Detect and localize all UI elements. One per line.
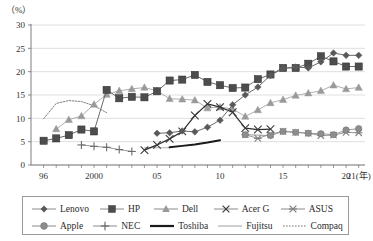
data-point-square <box>191 71 198 78</box>
series-compaq <box>44 101 107 119</box>
x-tick-label: 05 <box>153 171 163 181</box>
data-point-square <box>78 126 85 133</box>
data-point-circle <box>267 132 273 138</box>
y-tick-label: 30 <box>16 20 26 30</box>
legend-item-toshiba[interactable]: Toshiba <box>149 220 208 232</box>
thick-line-marker-icon <box>149 220 175 232</box>
data-point-triangle <box>254 106 261 113</box>
asterisk-marker-icon <box>280 203 306 215</box>
thin-line-marker-icon <box>217 220 243 232</box>
chart-plot-area: 0510152025309620000510152021(年) <box>0 14 373 192</box>
data-point-circle <box>305 130 311 136</box>
data-point-square <box>128 93 135 100</box>
data-point-square <box>90 128 97 135</box>
legend-item-acer-g[interactable]: Acer G <box>213 203 271 215</box>
data-point-circle <box>355 125 361 131</box>
legend-item-compaq[interactable]: Compaq <box>282 220 343 232</box>
y-tick-label: 20 <box>16 67 26 77</box>
data-point-square <box>242 84 249 91</box>
data-point-diamond <box>355 52 362 59</box>
series-line <box>44 101 107 119</box>
chart-legend: LenovoHPDellAcer GASUS AppleNECToshibaFu… <box>22 196 349 235</box>
y-tick-label: 15 <box>16 90 26 100</box>
data-point-circle <box>280 128 286 134</box>
triangle-marker-icon <box>153 203 179 215</box>
square-marker-icon <box>99 203 125 215</box>
data-point-plus <box>115 146 123 154</box>
x-tick-label: 2000 <box>85 171 104 181</box>
x-tick-label: 15 <box>279 171 289 181</box>
data-point-plus <box>90 142 98 150</box>
data-point-diamond <box>154 130 161 137</box>
data-point-triangle <box>53 125 60 132</box>
data-point-square <box>179 76 186 83</box>
legend-label: Acer G <box>242 204 270 214</box>
series-toshiba <box>170 140 220 147</box>
data-point-circle <box>318 131 324 137</box>
plus-marker-icon <box>92 220 118 232</box>
diamond-marker-icon <box>31 203 57 215</box>
x-tick-label: 21(年) <box>347 170 371 181</box>
y-tick-label: 10 <box>16 114 26 124</box>
legend-label: Dell <box>182 204 198 214</box>
series-line <box>157 53 359 133</box>
legend-row-1: LenovoHPDellAcer GASUS <box>31 200 342 217</box>
y-tick-label: 0 <box>21 160 26 170</box>
data-point-triangle <box>141 84 148 91</box>
data-point-circle <box>292 129 298 135</box>
data-point-diamond <box>343 52 350 59</box>
data-point-square <box>53 135 60 142</box>
y-tick-label: 5 <box>21 137 26 147</box>
legend-item-lenovo[interactable]: Lenovo <box>31 203 90 215</box>
data-point-triangle <box>317 87 324 94</box>
data-point-triangle <box>166 95 173 102</box>
data-point-square <box>103 86 110 93</box>
legend-label: ASUS <box>309 204 333 214</box>
series-nec <box>77 141 135 156</box>
data-point-square <box>342 63 349 70</box>
data-point-asterisk <box>254 135 262 141</box>
data-point-square <box>116 95 123 102</box>
line-chart-svg: 0510152025309620000510152021(年) <box>0 14 373 192</box>
data-point-circle <box>330 131 336 137</box>
data-point-diamond <box>330 50 337 57</box>
legend-label: NEC <box>121 221 140 231</box>
data-point-circle <box>242 131 248 137</box>
data-point-square <box>330 58 337 65</box>
data-point-diamond <box>166 130 173 137</box>
series-hp <box>40 53 362 145</box>
data-point-plus <box>103 143 111 151</box>
legend-item-apple[interactable]: Apple <box>31 220 83 232</box>
data-point-square <box>166 77 173 84</box>
data-point-square <box>40 137 47 144</box>
legend-row-2: AppleNECToshibaFujitsuCompaq <box>31 217 342 234</box>
data-point-square <box>141 94 148 101</box>
legend-label: Apple <box>60 221 83 231</box>
legend-label: Toshiba <box>178 221 208 231</box>
data-point-square <box>216 82 223 89</box>
data-point-triangle <box>90 101 97 108</box>
data-point-diamond <box>192 129 199 136</box>
data-point-plus <box>128 147 136 155</box>
legend-item-asus[interactable]: ASUS <box>280 203 333 215</box>
legend-item-hp[interactable]: HP <box>99 203 144 215</box>
data-point-square <box>204 78 211 85</box>
data-point-square <box>65 132 72 139</box>
data-point-square <box>355 63 362 70</box>
data-point-square <box>153 88 160 95</box>
legend-item-nec[interactable]: NEC <box>92 220 140 232</box>
legend-item-dell[interactable]: Dell <box>153 203 204 215</box>
legend-label: HP <box>128 204 140 214</box>
x-tick-label: 10 <box>216 171 226 181</box>
data-point-triangle <box>330 82 337 89</box>
data-point-triangle <box>242 113 249 120</box>
circle-marker-icon <box>31 220 57 232</box>
dotted-line-marker-icon <box>282 220 308 232</box>
legend-label: Lenovo <box>60 204 89 214</box>
legend-item-fujitsu[interactable]: Fujitsu <box>217 220 272 232</box>
series-line <box>170 140 220 147</box>
data-point-square <box>229 84 236 91</box>
y-tick-label: 25 <box>16 44 26 54</box>
x-tick-label: 96 <box>39 171 49 181</box>
data-point-diamond <box>204 124 211 131</box>
